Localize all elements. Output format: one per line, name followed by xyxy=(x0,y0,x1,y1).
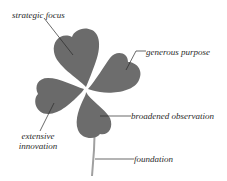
label-strategic-focus: strategic focus xyxy=(12,10,65,20)
label-extensive: extensive xyxy=(16,131,60,141)
clover-diagram: strategic focus generous purpose extensi… xyxy=(0,0,227,181)
leaf-bottom xyxy=(77,92,112,138)
label-innovation: innovation xyxy=(16,141,60,151)
label-extensive-innovation: extensive innovation xyxy=(16,131,60,151)
label-generous-purpose: generous purpose xyxy=(146,47,210,57)
label-broadened-observation: broadened observation xyxy=(131,111,214,121)
clover-graphic xyxy=(0,0,227,181)
leaf-left xyxy=(35,78,84,114)
label-foundation: foundation xyxy=(134,154,173,164)
leaf-top xyxy=(54,28,99,87)
